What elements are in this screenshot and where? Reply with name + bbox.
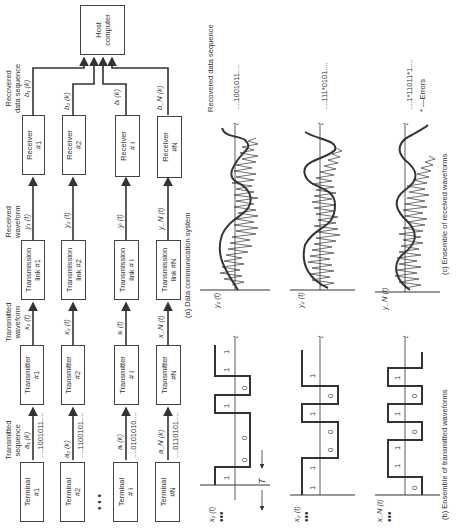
x1-bit-1: 0 bbox=[240, 458, 249, 462]
tx-wave-label-n: x_N (t) bbox=[375, 500, 384, 523]
seq-label-1: ....1001011.... bbox=[36, 413, 45, 458]
x2-bit-5: 0 bbox=[326, 394, 335, 398]
terminal-1-box: Terminal#1 bbox=[20, 462, 44, 522]
x2-bit-6: 1 bbox=[308, 374, 317, 378]
a-label-2: a₂ (k) bbox=[62, 440, 71, 458]
header-transmitted-waveform: Transmitted waveform x₁ (t) bbox=[4, 303, 31, 342]
rx-wave-label-1: y₁ (t) bbox=[212, 293, 221, 308]
y-label-n: y_N (t) bbox=[156, 208, 165, 231]
host-computer-box: Host computer bbox=[80, 5, 125, 55]
receiver-n-id: #N bbox=[170, 132, 179, 162]
terminal-2-label: Terminal bbox=[64, 478, 73, 506]
header-transmitted-sequence: Transmitted sequence a₁ (k) bbox=[4, 421, 31, 460]
transmitter-i-label: Transmitter bbox=[118, 356, 127, 394]
y-label-2: y₂ (t) bbox=[62, 212, 71, 228]
y-label-i: yᵢ (t) bbox=[115, 214, 124, 228]
transmitter-2-label: Transmitter bbox=[64, 356, 73, 394]
receiver-1-id: #1 bbox=[34, 130, 43, 160]
header-ts-2: sequence bbox=[13, 421, 22, 460]
xn-bit-5: 0 bbox=[410, 394, 419, 398]
tx-axis-t-n: t bbox=[401, 336, 410, 338]
xn-bit-0: 0 bbox=[410, 486, 419, 490]
xn-bit-1: 1 bbox=[393, 464, 402, 468]
rx-axis-t-1: t bbox=[231, 123, 240, 125]
x-label-n: x_N (t) bbox=[156, 316, 165, 339]
receiver-n-label: Receiver bbox=[161, 132, 170, 162]
recovered-seq-n: ....1*11011*1.... bbox=[405, 59, 414, 110]
x1-bit-0: 1 bbox=[222, 476, 231, 480]
x2-bit-0: 1 bbox=[308, 486, 317, 490]
tx-wave-label-1: x₁ (t) bbox=[207, 507, 216, 522]
chain-ellipsis: • • • bbox=[95, 494, 104, 510]
errors-note: * —Errors bbox=[418, 79, 427, 112]
header-recovered-sequence: Recovered data sequence b₁ (k) bbox=[4, 64, 31, 113]
x2-bit-3: 0 bbox=[326, 430, 335, 434]
x1-bit-6: 1 bbox=[222, 350, 231, 354]
host-computer-label: Host computer bbox=[94, 14, 112, 45]
tx-wave-dots-2: ••• bbox=[302, 511, 311, 522]
transmitter-n-id: #N bbox=[169, 356, 178, 394]
rx-wave-label-n: y_N (t) bbox=[380, 288, 389, 311]
header-tw-2: waveform bbox=[13, 303, 22, 342]
seq-label-n: ....0110101.... bbox=[171, 413, 180, 458]
recovered-seq-1: ....1001011.... bbox=[232, 65, 241, 110]
link-i-id: link # i bbox=[127, 248, 136, 292]
recovered-header: Recovered data sequence bbox=[206, 24, 215, 112]
bit-period-label: T bbox=[258, 479, 267, 485]
x1-bit-2: 0 bbox=[240, 436, 249, 440]
link-1-label: Transmission bbox=[24, 248, 33, 292]
terminal-n-box: Terminal#N bbox=[155, 462, 180, 522]
link-n-box: Transmissionlink #N bbox=[156, 240, 181, 300]
caption-a: (a) Data communication system bbox=[183, 213, 192, 318]
link-2-id: link #2 bbox=[74, 248, 83, 292]
xn-bit-3: 0 bbox=[410, 430, 419, 434]
header-tw-3: x₁ (t) bbox=[22, 303, 31, 342]
x1-bit-3: 1 bbox=[222, 404, 231, 408]
terminal-i-box: Terminal# i bbox=[113, 462, 138, 522]
header-tw-1: Transmitted bbox=[4, 303, 13, 342]
link-i-label: Transmission bbox=[118, 248, 127, 292]
link-n-id: link #N bbox=[169, 248, 178, 292]
a-label-i: aᵢ (k) bbox=[115, 434, 124, 450]
transmitter-2-box: Transmitter#2 bbox=[61, 345, 85, 405]
header-rd-1: Recovered bbox=[4, 64, 13, 113]
a-label-n: a_N (k) bbox=[156, 429, 165, 454]
receiver-i-label: Receiver bbox=[119, 131, 128, 161]
x1-bit-5: 1 bbox=[222, 368, 231, 372]
header-rd-3: b₁ (k) bbox=[22, 64, 31, 113]
receiver-i-box: Receiver# i bbox=[115, 115, 140, 177]
link-1-box: Transmissionlink #1 bbox=[21, 240, 45, 300]
header-rw-1: Received bbox=[4, 205, 13, 238]
receiver-n-box: Receiver#N bbox=[157, 116, 182, 178]
transmitter-1-box: Transmitter#1 bbox=[20, 345, 44, 405]
b-label-i: bᵢ (k) bbox=[112, 89, 121, 105]
x-label-2: x₂ (t) bbox=[62, 319, 71, 335]
b-label-2: b₂ (k) bbox=[62, 92, 71, 110]
rx-axis-t-n: t bbox=[401, 123, 410, 125]
tx-wave-dots-1: ••• bbox=[217, 511, 226, 522]
recovered-seq-2: ....111*0101.... bbox=[320, 62, 329, 110]
seq-label-2: ....1100101.... bbox=[76, 413, 85, 458]
header-rw-2: waveform bbox=[13, 205, 22, 238]
receiver-2-label: Receiver bbox=[65, 130, 74, 160]
host-label-line1: Host bbox=[94, 14, 103, 45]
header-ts-3: a₁ (k) bbox=[22, 421, 31, 460]
transmitter-i-box: Transmitter# i bbox=[114, 345, 139, 405]
link-1-id: link #1 bbox=[33, 248, 42, 292]
terminal-1-label: Terminal bbox=[23, 478, 32, 506]
link-i-box: Transmissionlink # i bbox=[114, 240, 139, 300]
terminal-2-box: Terminal#2 bbox=[60, 462, 85, 522]
x2-bit-1: 1 bbox=[308, 466, 317, 470]
receiver-1-label: Receiver bbox=[25, 130, 34, 160]
host-label-line2: computer bbox=[103, 14, 112, 45]
header-rw-3: y₁ (t) bbox=[22, 205, 31, 238]
receiver-1-box: Receiver#1 bbox=[22, 115, 45, 175]
terminal-i-id: # i bbox=[126, 478, 135, 506]
xn-bit-6: 1 bbox=[393, 376, 402, 380]
x2-bit-2: 0 bbox=[326, 448, 335, 452]
receiver-2-id: #2 bbox=[74, 130, 83, 160]
caption-b: (b) Ensemble of transmitted waveforms bbox=[440, 390, 449, 520]
transmitter-i-id: # i bbox=[127, 356, 136, 394]
x-label-i: xᵢ (t) bbox=[115, 321, 124, 335]
transmitter-2-id: #2 bbox=[73, 356, 82, 394]
